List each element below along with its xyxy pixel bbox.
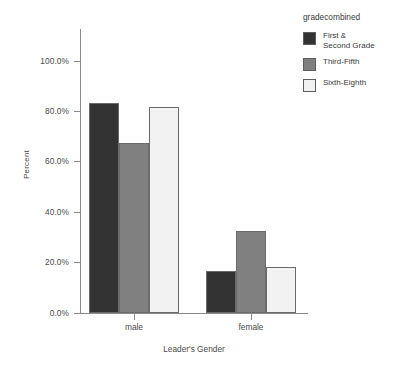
legend-swatch-sixth-eighth bbox=[303, 79, 316, 92]
legend-label-sixth-eighth: Sixth-Eighth bbox=[323, 78, 366, 88]
legend-label-first-second-grade: First & Second Grade bbox=[323, 31, 375, 50]
x-tick-label-male: male bbox=[89, 322, 179, 332]
legend-item-sixth-eighth: Sixth-Eighth bbox=[303, 78, 398, 92]
x-axis-title: Leader's Gender bbox=[80, 344, 308, 354]
bar-male-first-second-grade bbox=[89, 103, 119, 313]
x-axis-line bbox=[80, 313, 308, 314]
y-tick-label-80: 80.0% bbox=[9, 106, 69, 116]
y-tick-label-40: 40.0% bbox=[9, 207, 69, 217]
legend-label-third-fifth: Third-Fifth bbox=[323, 57, 359, 67]
y-tick-60 bbox=[74, 161, 81, 162]
legend: gradecombined First & Second Grade Third… bbox=[303, 12, 398, 99]
y-tick-100 bbox=[74, 61, 81, 62]
y-axis-line bbox=[80, 29, 81, 313]
y-tick-label-0: 0.0% bbox=[9, 308, 69, 318]
y-tick-40 bbox=[74, 212, 81, 213]
x-tick-female bbox=[251, 314, 252, 320]
bar-male-third-fifth bbox=[119, 143, 149, 313]
y-tick-label-20: 20.0% bbox=[9, 257, 69, 267]
legend-item-third-fifth: Third-Fifth bbox=[303, 57, 398, 71]
bar-male-sixth-eighth bbox=[149, 107, 179, 313]
y-tick-label-100: 100.0% bbox=[9, 56, 69, 66]
bar-female-sixth-eighth bbox=[266, 267, 296, 313]
legend-item-first-second-grade: First & Second Grade bbox=[303, 31, 398, 50]
y-tick-20 bbox=[74, 262, 81, 263]
legend-swatch-third-fifth bbox=[303, 58, 316, 71]
y-tick-label-60: 60.0% bbox=[9, 156, 69, 166]
bar-chart: Percent 100.0% 80.0% 60.0% 40.0% 20.0% 0… bbox=[0, 0, 398, 380]
legend-swatch-first-second-grade bbox=[303, 32, 316, 45]
x-tick-male bbox=[134, 314, 135, 320]
y-tick-80 bbox=[74, 111, 81, 112]
x-tick-label-female: female bbox=[206, 322, 296, 332]
bar-female-first-second-grade bbox=[206, 271, 236, 313]
bar-female-third-fifth bbox=[236, 231, 266, 313]
legend-title: gradecombined bbox=[303, 12, 398, 22]
